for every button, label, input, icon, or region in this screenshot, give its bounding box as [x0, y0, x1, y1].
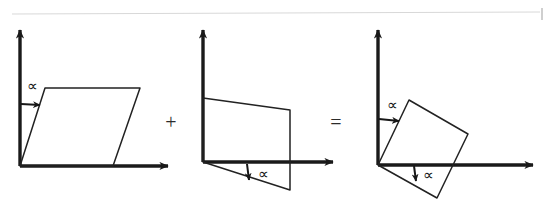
angle-label-alpha-left: ∝ [27, 78, 38, 94]
angle-indicator-arrow-left [21, 104, 40, 105]
angle-label-alpha-right-horizontal: ∝ [423, 167, 434, 183]
angle-label-alpha-right-vertical: ∝ [387, 97, 398, 113]
figure-root: ∝ + ∝ = ∝ ∝ [0, 0, 553, 207]
shear-composition-figure: ∝ + ∝ = ∝ ∝ [0, 0, 553, 207]
equals-operator: = [330, 111, 341, 133]
figure-background [0, 0, 553, 207]
scan-corner-tick [541, 8, 543, 20]
plus-operator: + [165, 111, 176, 133]
angle-label-alpha-middle: ∝ [258, 166, 269, 182]
